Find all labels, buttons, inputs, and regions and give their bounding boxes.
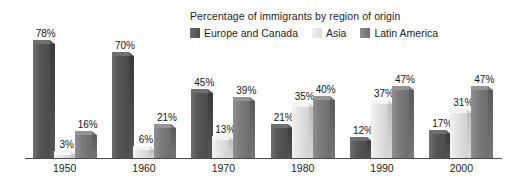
bar-1980-europe-and-canada: 21% — [271, 128, 293, 159]
bar-front-face — [350, 141, 367, 159]
bar-top-face — [271, 124, 288, 128]
bar-top-face — [212, 136, 229, 140]
bar-side-face — [171, 128, 176, 159]
bar-top-face — [471, 86, 488, 90]
bar-body — [112, 56, 129, 159]
bar-1980-asia: 35% — [292, 107, 314, 159]
bar-1990-asia: 37% — [371, 104, 393, 159]
bar-group-1950: 78%3%16% — [33, 14, 97, 159]
value-label-1980-latin-america: 40% — [309, 84, 343, 95]
bar-top-face — [75, 131, 92, 135]
bar-2000-asia: 31% — [450, 113, 472, 159]
bar-front-face — [429, 134, 446, 159]
bar-1950-latin-america: 16% — [75, 135, 97, 159]
bar-top-face — [429, 130, 446, 134]
bar-group-2000: 17%31%47% — [429, 14, 493, 159]
value-label-1970-europe-and-canada: 45% — [187, 77, 221, 88]
bar-1990-europe-and-canada: 12% — [350, 141, 372, 159]
bar-front-face — [191, 93, 208, 159]
value-label-1960-europe-and-canada: 70% — [108, 40, 142, 51]
value-label-1950-latin-america: 16% — [71, 119, 105, 130]
bar-body — [191, 93, 208, 159]
value-label-2000-latin-america: 47% — [467, 74, 501, 85]
x-axis-labels: 195019601970198019902000 — [25, 161, 502, 177]
bar-front-face — [292, 107, 309, 159]
bar-top-face — [233, 97, 250, 101]
bar-side-face — [250, 101, 255, 159]
bar-1980-latin-america: 40% — [313, 100, 335, 159]
bar-body — [233, 101, 250, 159]
bar-top-face — [313, 96, 330, 100]
bar-body — [429, 134, 446, 159]
bar-front-face — [154, 128, 171, 159]
x-axis-tick-1990: 1990 — [352, 161, 412, 175]
x-axis-tick-1980: 1980 — [273, 161, 333, 175]
bar-body — [350, 141, 367, 159]
bar-chart: Percentage of immigrants by region of or… — [0, 0, 515, 180]
bar-top-face — [154, 124, 171, 128]
bar-top-face — [33, 40, 50, 44]
bar-front-face — [471, 90, 488, 159]
bar-front-face — [371, 104, 388, 159]
x-axis-tick-1960: 1960 — [114, 161, 174, 175]
bar-group-1970: 45%13%39% — [191, 14, 255, 159]
x-axis-tick-1950: 1950 — [35, 161, 95, 175]
bar-front-face — [112, 56, 129, 159]
bar-2000-europe-and-canada: 17% — [429, 134, 451, 159]
value-label-1990-latin-america: 47% — [388, 74, 422, 85]
x-axis-tick-1970: 1970 — [193, 161, 253, 175]
value-label-1950-europe-and-canada: 78% — [29, 28, 63, 39]
bar-front-face — [233, 101, 250, 159]
bar-top-face — [350, 137, 367, 141]
bar-1970-asia: 13% — [212, 140, 234, 159]
value-label-1970-latin-america: 39% — [229, 85, 263, 96]
bar-front-face — [271, 128, 288, 159]
bar-top-face — [371, 100, 388, 104]
bar-body — [371, 104, 388, 159]
bar-2000-latin-america: 47% — [471, 90, 493, 159]
bar-group-1960: 70%6%21% — [112, 14, 176, 159]
bar-body — [154, 128, 171, 159]
bar-body — [271, 128, 288, 159]
bar-front-face — [75, 135, 92, 159]
bar-1960-latin-america: 21% — [154, 128, 176, 159]
bar-front-face — [450, 113, 467, 159]
bar-body — [313, 100, 330, 159]
bar-body — [471, 90, 488, 159]
bar-front-face — [392, 90, 409, 159]
bar-group-1980: 21%35%40% — [271, 14, 335, 159]
bar-side-face — [92, 135, 97, 159]
bar-top-face — [54, 151, 71, 155]
bar-top-face — [450, 109, 467, 113]
bar-body — [292, 107, 309, 159]
bar-top-face — [133, 146, 150, 150]
bar-top-face — [392, 86, 409, 90]
bar-1970-latin-america: 39% — [233, 101, 255, 159]
bar-1990-latin-america: 47% — [392, 90, 414, 159]
x-axis-tick-2000: 2000 — [431, 161, 491, 175]
bar-front-face — [212, 140, 229, 159]
bar-body — [75, 135, 92, 159]
bar-body — [450, 113, 467, 159]
bar-side-face — [488, 90, 493, 159]
bar-top-face — [112, 52, 129, 56]
bar-body — [212, 140, 229, 159]
plot-area: 78%3%16%70%6%21%45%13%39%21%35%40%12%37%… — [25, 14, 501, 159]
bar-top-face — [191, 89, 208, 93]
x-axis-line — [25, 158, 502, 159]
value-label-1960-latin-america: 21% — [150, 112, 184, 123]
bar-front-face — [313, 100, 330, 159]
bar-body — [392, 90, 409, 159]
bar-side-face — [409, 90, 414, 159]
bar-side-face — [330, 100, 335, 159]
bar-group-1990: 12%37%47% — [350, 14, 414, 159]
bar-top-face — [292, 103, 309, 107]
bar-body — [33, 44, 50, 159]
bar-front-face — [33, 44, 50, 159]
